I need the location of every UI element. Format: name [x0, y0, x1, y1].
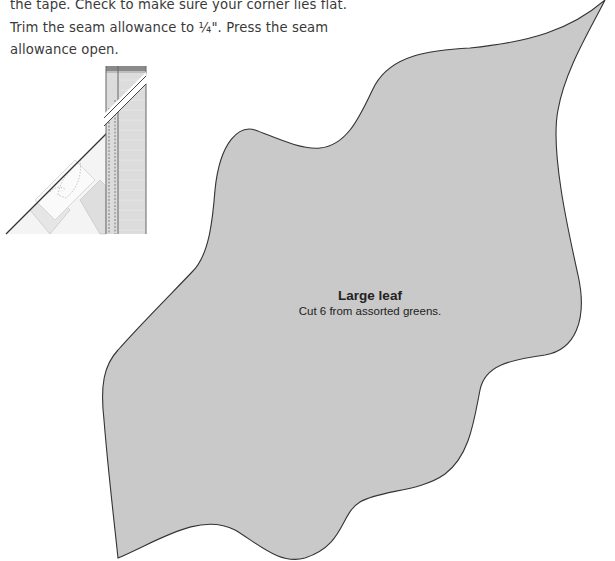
instruction-line-3: allowance open.: [10, 39, 330, 62]
instruction-line-2: Trim the seam allowance to ¼". Press the…: [10, 17, 330, 40]
leaf-outline: [103, 0, 605, 559]
binding-corner-diagram: [0, 60, 160, 240]
leaf-label: Large leaf Cut 6 from assorted greens.: [270, 288, 470, 318]
instruction-line-1: the tape. Check to make sure your corner…: [10, 0, 330, 17]
instruction-text: the tape. Check to make sure your corner…: [10, 0, 330, 62]
leaf-cut-instructions: Cut 6 from assorted greens.: [270, 304, 470, 318]
leaf-title: Large leaf: [270, 288, 470, 304]
diagram-illustration: [0, 60, 160, 240]
